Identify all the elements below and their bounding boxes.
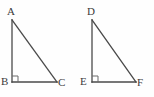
triangles-drawing	[0, 0, 154, 97]
triangle-def-shape	[92, 20, 136, 82]
vertex-label-c: C	[58, 77, 65, 88]
segment-df-hypotenuse	[92, 20, 136, 82]
right-angle-marker-e	[92, 76, 98, 82]
segment-ac-hypotenuse	[12, 20, 57, 82]
vertex-label-f: F	[137, 77, 143, 88]
vertex-label-d: D	[87, 6, 95, 17]
vertex-label-e: E	[80, 76, 87, 87]
vertex-label-b: B	[1, 76, 8, 87]
triangle-abc-shape	[12, 20, 57, 82]
vertex-label-a: A	[7, 6, 15, 17]
geometry-figure-canvas: A B C D E F	[0, 0, 154, 97]
right-angle-marker-b	[12, 76, 18, 82]
